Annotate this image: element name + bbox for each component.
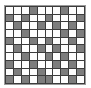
- pattern-cell: [38, 7, 45, 14]
- pattern-cell: [46, 45, 53, 52]
- pattern-cell: [53, 38, 60, 45]
- pattern-cell: [69, 69, 76, 76]
- pattern-cell: [38, 38, 45, 45]
- pattern-cell: [46, 22, 53, 29]
- pattern-cell: [61, 69, 68, 76]
- pattern-cell: [6, 38, 13, 45]
- pattern-cell: [14, 22, 21, 29]
- pattern-cell: [69, 30, 76, 37]
- pattern-swatch-figure: [0, 0, 91, 88]
- pattern-cell: [53, 45, 60, 52]
- pattern-cell: [53, 69, 60, 76]
- pattern-cell: [69, 38, 76, 45]
- pattern-cell: [6, 53, 13, 60]
- pattern-cell: [14, 61, 21, 68]
- pattern-cell: [30, 30, 37, 37]
- pattern-cell: [46, 76, 53, 83]
- pattern-cell: [53, 7, 60, 14]
- pattern-cell: [38, 53, 45, 60]
- pattern-cell: [6, 61, 13, 68]
- pattern-cell: [53, 30, 60, 37]
- pattern-cell: [61, 53, 68, 60]
- pattern-cell: [46, 53, 53, 60]
- pattern-cell: [22, 61, 29, 68]
- pattern-cell: [14, 76, 21, 83]
- pattern-cell: [22, 38, 29, 45]
- pattern-cell: [38, 22, 45, 29]
- pattern-cell: [22, 15, 29, 22]
- pattern-cell: [14, 38, 21, 45]
- pattern-cell: [53, 76, 60, 83]
- pattern-grid: [6, 7, 84, 83]
- pattern-cell: [38, 69, 45, 76]
- pattern-cell: [6, 22, 13, 29]
- pattern-cell: [53, 22, 60, 29]
- pattern-cell: [14, 69, 21, 76]
- pattern-cell: [38, 30, 45, 37]
- pattern-cell: [30, 38, 37, 45]
- pattern-cell: [69, 7, 76, 14]
- pattern-cell: [38, 15, 45, 22]
- pattern-cell: [14, 45, 21, 52]
- pattern-cell: [77, 30, 84, 37]
- pattern-cell: [22, 22, 29, 29]
- pattern-cell: [69, 53, 76, 60]
- pattern-cell: [6, 30, 13, 37]
- pattern-cell: [77, 38, 84, 45]
- pattern-cell: [46, 69, 53, 76]
- pattern-cell: [30, 15, 37, 22]
- pattern-cell: [22, 7, 29, 14]
- pattern-cell: [46, 30, 53, 37]
- pattern-cell: [46, 7, 53, 14]
- pattern-cell: [46, 15, 53, 22]
- pattern-cell: [61, 38, 68, 45]
- pattern-cell: [53, 61, 60, 68]
- pattern-cell: [61, 45, 68, 52]
- pattern-cell: [46, 38, 53, 45]
- pattern-cell: [77, 69, 84, 76]
- pattern-cell: [69, 22, 76, 29]
- pattern-cell: [6, 76, 13, 83]
- pattern-cell: [30, 7, 37, 14]
- pattern-cell: [22, 76, 29, 83]
- pattern-cell: [77, 61, 84, 68]
- pattern-cell: [46, 61, 53, 68]
- pattern-cell: [22, 53, 29, 60]
- pattern-cell: [6, 69, 13, 76]
- pattern-cell: [69, 61, 76, 68]
- pattern-cell: [61, 15, 68, 22]
- pattern-cell: [22, 45, 29, 52]
- pattern-cell: [6, 15, 13, 22]
- pattern-cell: [77, 7, 84, 14]
- pattern-cell: [30, 69, 37, 76]
- pattern-cell: [61, 7, 68, 14]
- pattern-cell: [77, 45, 84, 52]
- pattern-cell: [69, 15, 76, 22]
- pattern-cell: [53, 53, 60, 60]
- pattern-cell: [30, 53, 37, 60]
- pattern-cell: [14, 53, 21, 60]
- pattern-cell: [30, 22, 37, 29]
- pattern-cell: [69, 45, 76, 52]
- pattern-cell: [77, 15, 84, 22]
- pattern-cell: [61, 30, 68, 37]
- pattern-cell: [38, 61, 45, 68]
- pattern-cell: [77, 53, 84, 60]
- pattern-cell: [22, 69, 29, 76]
- pattern-cell: [14, 7, 21, 14]
- pattern-cell: [53, 15, 60, 22]
- pattern-cell: [77, 22, 84, 29]
- pattern-cell: [30, 61, 37, 68]
- pattern-cell: [30, 45, 37, 52]
- pattern-cell: [6, 45, 13, 52]
- pattern-cell: [61, 61, 68, 68]
- pattern-cell: [61, 22, 68, 29]
- pattern-cell: [38, 45, 45, 52]
- pattern-cell: [6, 7, 13, 14]
- pattern-cell: [22, 30, 29, 37]
- pattern-grid-frame: [4, 5, 86, 85]
- pattern-cell: [69, 76, 76, 83]
- pattern-cell: [38, 76, 45, 83]
- pattern-cell: [61, 76, 68, 83]
- pattern-cell: [14, 30, 21, 37]
